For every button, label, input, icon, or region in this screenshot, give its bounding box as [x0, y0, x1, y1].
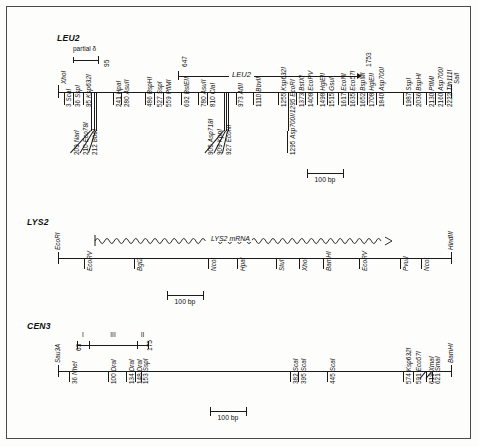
lys2-left-endcap — [58, 252, 59, 264]
leu2-site-label-905: 905 Asp718I — [208, 119, 214, 155]
cen3-tick-382 — [290, 372, 291, 382]
lys2-site-label-8: PvuII — [403, 256, 409, 271]
cen3-tick-100 — [108, 372, 109, 382]
leu2-tick-2130 — [426, 93, 427, 105]
leu2-gene-end-coord: 1753 — [365, 52, 372, 67]
leu2-gene-name: LEU2 — [229, 70, 254, 79]
leu2-site-label-1408: 1408 EcoRV — [308, 71, 314, 107]
leu2-leader-1295 — [287, 131, 288, 153]
lys2-tick-4 — [276, 259, 277, 269]
cen3-tick-621 — [432, 372, 433, 382]
leu2-site-label-927: 927 EcoNI — [226, 125, 232, 155]
lys2-site-label-1: Bgl2 — [137, 258, 143, 271]
leu2-tick-810 — [207, 93, 208, 105]
leu2-site-label-1708: 1708 HgiEII — [369, 73, 375, 107]
leu2-left-endcap — [58, 85, 59, 98]
lys2-title: LYS2 — [27, 217, 49, 227]
leu2-site-label-1373: 1373 BstXI — [299, 75, 305, 107]
lys2-scalebar-label: 100 bp — [159, 298, 211, 305]
lys2-site-label-7: EcoRV — [362, 251, 368, 271]
leu2-tick-2036 — [413, 93, 414, 105]
leu2-site-label-1840: 1840 Asp700I — [379, 67, 385, 107]
leu2-site-label-973: 973 AflII — [238, 83, 244, 107]
figure-frame: LEU2 partial δ 95 647 1753 LEU2 XhoI Sal… — [6, 6, 471, 439]
leu2-tick-95 — [83, 93, 84, 105]
cen3-region-divider-2 — [137, 341, 138, 349]
leu2-site-label-36: 36 SspI — [75, 85, 81, 107]
partial-delta-right-cap — [98, 56, 99, 64]
cen3-tick-36 — [69, 372, 70, 382]
partial-delta-left-cap — [73, 57, 74, 63]
cen3-region-label-I: I — [77, 331, 89, 338]
cen3-left-end-label: Sau3A — [55, 344, 61, 363]
cen3-region-divider-1 — [89, 341, 90, 349]
lys2-right-endcap — [451, 252, 452, 264]
partial-delta-end-coord: 95 — [103, 60, 110, 67]
leu2-tick-559 — [163, 93, 164, 105]
cen3-site-label-36: 36 NheI — [72, 361, 78, 384]
lys2-scalebar-bar — [167, 295, 203, 296]
leu2-site-label-559: 559 PflMI — [166, 80, 172, 108]
leu2-site-label-1498: 1498 HgiEII — [320, 73, 326, 107]
lys2-site-label-4: StuI — [279, 259, 285, 271]
cen3-tick-574 — [403, 372, 404, 382]
leu2-site-label-2160: 2160 Asp700I — [438, 67, 444, 107]
leu2-site-label-1987: 1987 SspI — [406, 78, 412, 107]
lys2-panel: LYS2 LYS2 mRNA EcoRI HindIII EcoRVBgl2Nc… — [7, 213, 472, 318]
leu2-left-end-label: XhoI — [61, 71, 67, 84]
lys2-site-label-3: HpaI — [240, 257, 246, 271]
leu2-gene-start-coord: 647 — [181, 56, 188, 67]
leu2-site-label-212: 212 BbeI — [92, 129, 98, 155]
cen3-site-label-591: 591 Eco57I — [416, 351, 422, 384]
lys2-site-label-9: NcoI — [424, 258, 430, 271]
leu2-site-label-1617: 1617 EcoNI — [341, 73, 347, 107]
lys2-mrna-label: LYS2 mRNA — [209, 235, 252, 242]
lys2-tick-3 — [237, 259, 238, 269]
lys2-site-label-2: NcoI — [211, 258, 217, 271]
cen3-region-right-coord: 175 — [146, 340, 153, 351]
cen3-site-label-153: 153 SspI — [143, 358, 149, 384]
lys2-tick-0 — [84, 259, 85, 269]
leu2-site-label-1652: 1652 BspMI — [360, 72, 366, 107]
lys2-tick-9 — [421, 259, 422, 269]
leu2-site-label-1515: 1515 GsuI — [329, 77, 335, 107]
leu2-site-label-486: 486 BspHI — [147, 77, 153, 107]
leu2-site-label-280: 280 AsuII — [124, 79, 130, 107]
leu2-site-label-1635: 1635 Eco57I — [350, 71, 356, 107]
leu2-tick-1840 — [376, 93, 377, 105]
cen3-site-label-100: 100 DraI — [111, 359, 117, 384]
leu2-site-label-692: 692 BstEII — [184, 77, 190, 107]
leu2-tick-692 — [181, 93, 182, 105]
cen3-right-endcap — [451, 365, 452, 377]
lys2-tick-6 — [323, 259, 324, 269]
cen3-tick-395 — [298, 372, 299, 382]
leu2-tick-527 — [154, 93, 155, 105]
leu2-tick-1110 — [253, 93, 254, 105]
leu2-right-end-label: SalI — [454, 73, 460, 84]
leu2-tick-1652 — [357, 93, 358, 105]
cen3-scalebar-bar — [210, 411, 246, 412]
leu2-site-label-527: 527 SspI — [157, 81, 163, 107]
leu2-site-label-780: 780 AsuII — [201, 79, 207, 107]
leu2-site-label-2036: 2036 BspHI — [416, 73, 422, 107]
leu2-tick-210 — [94, 93, 95, 131]
cen3-tick-445 — [327, 372, 328, 382]
cen3-scalebar-label: 100 bp — [202, 414, 254, 421]
lys2-right-end-label: HindIII — [448, 231, 454, 250]
cen3-left-endcap — [58, 365, 59, 377]
cen3-region-label-II: II — [137, 331, 148, 338]
leu2-tick-1987 — [403, 93, 404, 105]
leu2-site-label-3: 3 ScaI — [66, 89, 72, 107]
cen3-site-label-445: 445 ScaI — [330, 358, 336, 384]
leu2-scalebar-bar — [307, 173, 343, 174]
lys2-tick-1 — [134, 259, 135, 269]
cen3-tick-591 — [413, 372, 414, 382]
cen3-title: CEN3 — [27, 321, 51, 331]
leu2-tick-1408 — [305, 93, 306, 105]
cen3-site-label-395: 395 ScaI — [301, 358, 307, 384]
lys2-tick-8 — [400, 259, 401, 269]
leu2-site-label-810: 810 ClaI — [210, 83, 216, 107]
leu2-title: LEU2 — [57, 33, 80, 43]
lys2-tick-2 — [208, 259, 209, 269]
lys2-site-label-0: EcoRV — [87, 251, 93, 271]
